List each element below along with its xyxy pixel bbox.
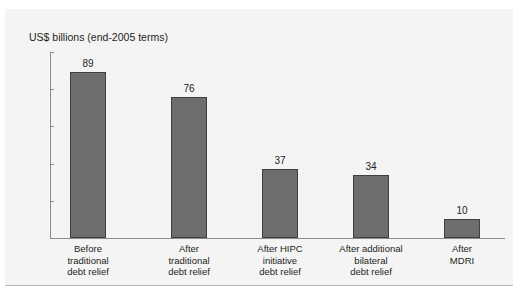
category-label: Beforetraditionaldebt relief bbox=[67, 243, 109, 278]
category-label-line: bilateral bbox=[339, 255, 402, 267]
category-label-line: After additional bbox=[339, 243, 402, 255]
category-label-line: debt relief bbox=[168, 266, 210, 278]
y-tick-mark bbox=[50, 238, 54, 239]
y-tick-mark bbox=[50, 126, 54, 127]
category-label-line: initiative bbox=[257, 255, 302, 267]
category-label-line: traditional bbox=[168, 255, 210, 267]
category-label-line: debt relief bbox=[339, 266, 402, 278]
category-label: After additionalbilateraldebt relief bbox=[339, 243, 402, 278]
category-label-line: Before bbox=[67, 243, 109, 255]
y-tick-40: 40 bbox=[5, 164, 54, 165]
y-tick-mark bbox=[50, 52, 54, 53]
y-tick-mark bbox=[50, 201, 54, 202]
bar-value-label: 76 bbox=[183, 83, 194, 94]
x-axis-line bbox=[50, 238, 505, 239]
y-tick-100: 100 bbox=[5, 52, 54, 53]
category-label-line: debt relief bbox=[257, 266, 302, 278]
y-tick-mark bbox=[50, 164, 54, 165]
category-label: After HIPCinitiativedebt relief bbox=[257, 243, 302, 278]
bar-value-label: 10 bbox=[456, 205, 467, 216]
y-tick-20: 20 bbox=[5, 201, 54, 202]
bar-value-label: 89 bbox=[82, 58, 93, 69]
category-label-line: After HIPC bbox=[257, 243, 302, 255]
y-tick-0: 0 bbox=[5, 238, 54, 239]
category-label: AfterMDRI bbox=[450, 243, 474, 266]
category-label-line: MDRI bbox=[450, 255, 474, 267]
figure-panel: US$ billions (end-2005 terms) 0204060801… bbox=[5, 9, 513, 286]
bar-chart-plot-area: 020406080100 8976373410 Beforetraditiona… bbox=[5, 9, 513, 286]
bar bbox=[353, 175, 389, 238]
category-label-line: After bbox=[450, 243, 474, 255]
bar bbox=[262, 169, 298, 238]
bar-value-label: 37 bbox=[274, 155, 285, 166]
bar-value-label: 34 bbox=[365, 161, 376, 172]
category-label: Aftertraditionaldebt relief bbox=[168, 243, 210, 278]
y-axis-line bbox=[50, 52, 51, 238]
y-tick-mark bbox=[50, 89, 54, 90]
y-tick-80: 80 bbox=[5, 89, 54, 90]
figure-caption-cropped: FIGURE 1.1 Reduction of debt stocks (pre… bbox=[0, 0, 528, 5]
bar bbox=[171, 97, 207, 238]
category-label-line: After bbox=[168, 243, 210, 255]
category-label-line: debt relief bbox=[67, 266, 109, 278]
bar bbox=[444, 219, 480, 238]
y-tick-60: 60 bbox=[5, 126, 54, 127]
bar bbox=[70, 72, 106, 238]
category-label-line: traditional bbox=[67, 255, 109, 267]
